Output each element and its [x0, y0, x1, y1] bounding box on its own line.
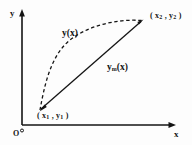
variational-path-diagram: y x O y(x) ym(x) ( x2 , y2 ) ( x1 , y1 ): [0, 0, 192, 145]
x-axis-label: x: [174, 130, 179, 139]
endpoint-2-mid: , y: [162, 11, 173, 20]
endpoint-1-mid: , y: [49, 111, 60, 120]
line-label-tail: (x): [117, 62, 128, 72]
x-axis-arrowhead-icon: [169, 122, 177, 128]
endpoint-2-close: ): [176, 11, 181, 20]
endpoint-2-open: ( x: [150, 11, 159, 20]
line-label-y-m-of-x: ym(x): [107, 63, 128, 73]
origin-label: O: [13, 130, 19, 138]
endpoint-1-open: ( x: [37, 111, 46, 120]
endpoint-1-label: ( x1 , y1 ): [37, 112, 69, 120]
y-axis-label: y: [10, 9, 15, 18]
y-axis-arrowhead-icon: [19, 9, 25, 17]
curve-label-y-of-x: y(x): [62, 29, 78, 39]
endpoint-1-close: ): [63, 111, 68, 120]
diagram-canvas: [0, 0, 192, 145]
endpoint-2-label: ( x2 , y2 ): [150, 12, 182, 20]
origin-marker: [21, 129, 24, 132]
